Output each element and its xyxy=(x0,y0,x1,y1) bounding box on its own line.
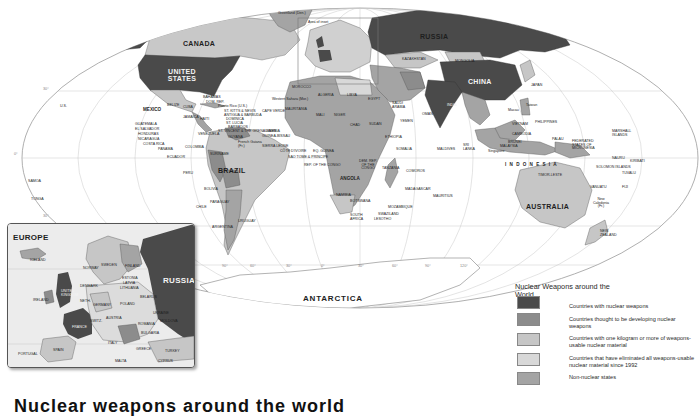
graticule-label-lon-30w: 30° xyxy=(286,265,292,269)
inset-label-moldova: MOLDOVA xyxy=(160,320,178,324)
legend-label: Non-nuclear states xyxy=(569,374,699,381)
legend-swatch xyxy=(517,296,540,309)
label-guinea-bissau: GUINEA-BISSAU xyxy=(262,135,290,139)
label-mozambique: MOZAMBIQUE xyxy=(388,206,413,210)
inset-label-poland: POLAND xyxy=(120,303,135,307)
inset-label-netherlands: NETH. xyxy=(80,300,91,304)
label-eq-guinea: EQ. GUINEA xyxy=(313,150,334,154)
label-sudan: SUDAN xyxy=(369,123,382,127)
inset-title: EUROPE xyxy=(13,234,49,242)
label-chile: CHILE xyxy=(196,206,207,210)
inset-label-lithuania: LITHUANIA xyxy=(120,287,139,291)
inset-label-romania: ROMANIA xyxy=(138,323,155,327)
inset-label-germany: GERMANY xyxy=(93,304,111,308)
label-mongolia: MONGOLIA xyxy=(455,60,474,64)
label-antarctica: ANTARCTICA xyxy=(303,295,363,303)
label-rep-congo: REP. OF THE CONGO xyxy=(304,164,341,168)
label-venezuela: VENEZUELA xyxy=(198,133,219,137)
inset-label-switzerland: SWITZ. xyxy=(90,320,102,324)
inset-label-cyprus: CYPRUS xyxy=(158,360,173,364)
inset-label-russia: RUSSIA xyxy=(163,277,195,285)
label-lesotho: LESOTHO xyxy=(374,218,391,222)
label-western-sahara: Western Sahara (Mor.) xyxy=(272,98,308,102)
label-algeria: ALGERIA xyxy=(318,94,334,98)
label-yemen: YEMEN xyxy=(400,120,413,124)
land-russia xyxy=(368,10,570,58)
label-angola: ANGOLA xyxy=(340,177,360,182)
label-fiji: FIJI xyxy=(622,186,628,190)
label-libya: LIBYA xyxy=(347,94,357,98)
label-vietnam: VIETNAM xyxy=(512,123,528,127)
label-micronesia: FEDERATED STATES OF MICRONESIA xyxy=(572,140,604,151)
label-suriname: SURINAME xyxy=(210,153,229,157)
inset-label-turkey: TURKEY xyxy=(165,350,180,354)
label-cuba: CUBA xyxy=(183,106,193,110)
label-egypt: EGYPT xyxy=(368,98,380,102)
inset-label-ukraine: UKRAINE xyxy=(153,312,169,316)
graticule-label-lon-30e: 30° xyxy=(358,265,364,269)
label-japan: JAPAN xyxy=(531,84,542,88)
label-colombia: COLOMBIA xyxy=(185,146,204,150)
land-france xyxy=(318,50,332,62)
label-brazil: BRAZIL xyxy=(218,167,245,174)
label-ethiopia: ETHIOPIA xyxy=(385,136,402,140)
graticule-label-lon-90w: 90° xyxy=(222,265,228,269)
inset-label-belarus: BELARUS xyxy=(140,296,157,300)
label-kazakhstan: KAZAKHSTAN xyxy=(402,58,426,62)
label-mali: MALI xyxy=(316,114,324,118)
inset-label-greece: GREECE xyxy=(136,348,151,352)
label-botswana: BOTSWANA xyxy=(350,200,370,204)
label-comoros: COMOROS xyxy=(406,170,425,174)
inset-label-italy: ITALY xyxy=(108,342,117,346)
legend: Nuclear Weapons around the World Countri… xyxy=(513,283,700,298)
label-taiwan: Taiwan xyxy=(526,104,537,108)
inset-label-norway: NORWAY xyxy=(83,267,99,271)
label-vanuatu: VANUATU xyxy=(590,186,607,190)
legend-swatch xyxy=(517,353,540,366)
inset-label-austria: AUSTRIA xyxy=(106,317,122,321)
label-samoa: SAMOA xyxy=(28,180,41,184)
label-timor-leste: TIMOR-LESTE xyxy=(538,174,562,178)
graticule-label-0: 0° xyxy=(14,153,18,157)
label-french-guiana: French Guiana (Fr.) xyxy=(238,141,262,148)
inset-label-finland: FINLAND xyxy=(125,265,140,269)
label-cote-divoire: CÔTE D'IVOIRE xyxy=(280,150,306,154)
label-russia: RUSSIA xyxy=(420,33,448,40)
legend-label: Countries that have eliminated all weapo… xyxy=(569,355,699,368)
label-mauritius: MAURITIUS xyxy=(433,195,453,199)
legend-label: Countries with nuclear weapons xyxy=(569,303,699,310)
inset-label-bulgaria: BULGARIA xyxy=(141,332,159,336)
graticule-label-lon-60e: 60° xyxy=(392,265,398,269)
label-nauru: NAURU xyxy=(612,157,625,161)
label-peru: PERU xyxy=(183,172,193,176)
graticule-label-lon-0: 0° xyxy=(321,265,325,269)
label-sao-tome: SAO TOME & PRINCIPE xyxy=(288,156,328,160)
label-palau: PALAU xyxy=(552,138,564,142)
legend-label: Countries thought to be developing nucle… xyxy=(569,316,699,329)
europe-inset-svg xyxy=(8,224,194,367)
label-macau: Macau xyxy=(508,109,519,113)
graticule-label-30n: 30° xyxy=(43,88,49,92)
graticule-label-lon-90e: 90° xyxy=(425,265,431,269)
label-solomon: SOLOMON ISLANDS xyxy=(596,166,631,170)
label-indonesia: I N D O N E S I A xyxy=(505,163,558,168)
legend-swatch xyxy=(517,313,540,326)
label-morocco: MOROCCO xyxy=(292,86,311,90)
label-tanzania: TANZANIA xyxy=(382,167,400,171)
label-philippines: PHILIPPINES xyxy=(535,121,557,125)
label-south-africa: SOUTH AFRICA xyxy=(350,214,368,221)
inset-label-france: FRANCE xyxy=(72,326,87,330)
label-maldives: MALDIVES xyxy=(437,148,455,152)
label-paraguay: PARAGUAY xyxy=(210,201,229,205)
label-united-states: UNITED STATES xyxy=(162,68,202,82)
label-argentina: ARGENTINA xyxy=(212,226,233,230)
graticule-label-30s: 30° xyxy=(43,215,49,219)
label-jamaica: JAMAICA xyxy=(183,116,199,120)
label-india: INDIA xyxy=(447,104,457,108)
label-canada: CANADA xyxy=(183,40,215,47)
label-mauritania: MAURITANIA xyxy=(285,108,307,112)
label-chad: CHAD xyxy=(350,124,360,128)
label-drc: DEM. REP. OF THE CONGO xyxy=(357,160,379,171)
europe-inset-map: EUROPE RUSSIA ICELAND NORWAY SWEDEN FINL… xyxy=(7,223,195,368)
legend-label: Countries with one kilogram or more of w… xyxy=(569,335,699,348)
